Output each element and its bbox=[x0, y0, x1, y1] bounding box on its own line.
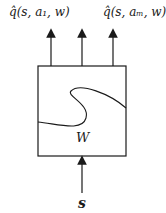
function-curve bbox=[38, 88, 126, 126]
input-label: s bbox=[78, 195, 86, 211]
output-label-1: q̂(s, a₁, w) bbox=[9, 5, 70, 19]
output-label-m: q̂(s, aₘ, w) bbox=[103, 5, 166, 19]
diagram-canvas bbox=[0, 0, 166, 213]
weights-label: W bbox=[76, 130, 89, 145]
